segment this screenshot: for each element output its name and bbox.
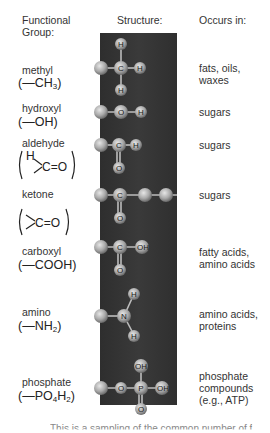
atom-label: OH xyxy=(137,243,149,252)
atom-label: C xyxy=(116,141,122,150)
atom-label: H xyxy=(118,86,124,95)
svg-text:C=O: C=O xyxy=(35,216,60,230)
formula-text: (—CH xyxy=(18,76,53,90)
svg-text:H: H xyxy=(26,149,35,163)
atom-label: O xyxy=(117,266,123,275)
group-name-carboxyl: carboxyl xyxy=(22,245,61,257)
occurs-ketone: sugars xyxy=(199,189,231,201)
formula-amino: (—NH2) xyxy=(18,319,61,333)
formula-text: H xyxy=(57,389,66,403)
atom-label: H xyxy=(131,332,137,341)
atom-label: P xyxy=(138,384,143,393)
svg-text:C=O: C=O xyxy=(42,160,67,174)
occurs-amino: amino acids, proteins xyxy=(199,308,258,332)
occurs-aldehyde: sugars xyxy=(199,139,231,151)
atom-label: H xyxy=(133,141,139,150)
occurs-phosphate: phosphate compounds (e.g., ATP) xyxy=(199,370,253,406)
formula-text: ) xyxy=(57,319,61,333)
formula-methyl: (—CH3) xyxy=(18,76,61,90)
group-name-ketone: ketone xyxy=(22,188,54,200)
formula-hydroxyl: (—OH) xyxy=(18,115,58,129)
formula-ketone: C=O xyxy=(16,207,72,240)
occurs-methyl: fats, oils, waxes xyxy=(199,62,240,86)
atom-label: H xyxy=(138,108,144,117)
formula-carboxyl: (—COOH) xyxy=(18,258,76,272)
formula-text: ) xyxy=(71,389,75,403)
occurs-carboxyl: fatty acids, amino acids xyxy=(199,246,255,270)
group-name-methyl: methyl xyxy=(22,64,53,76)
atom-label: C xyxy=(117,243,123,252)
atom-label: H xyxy=(137,64,143,73)
formula-text: ) xyxy=(57,76,61,90)
formula-text: (—NH xyxy=(18,319,53,333)
aldehyde-structure-icon: H C=O xyxy=(16,148,76,182)
group-name-amino: amino xyxy=(22,306,51,318)
ketone-structure-icon: C=O xyxy=(16,207,72,237)
atom-label: C xyxy=(117,191,123,200)
atom-label: O xyxy=(117,214,123,223)
atom-label: H xyxy=(131,290,137,299)
atom-label: N xyxy=(121,312,127,321)
atom-label: OH xyxy=(135,362,147,371)
atom-label: O xyxy=(118,384,124,393)
atom-label: OH xyxy=(157,384,169,393)
group-name-phosphate: phosphate xyxy=(22,376,71,388)
formula-text: (—PO xyxy=(18,389,53,403)
group-name-hydroxyl: hydroxyl xyxy=(22,102,61,114)
formula-aldehyde: H C=O xyxy=(16,148,76,185)
atom-label: O xyxy=(138,405,144,414)
atom-label: O xyxy=(118,108,124,117)
atom-label: O xyxy=(116,164,122,173)
formula-phosphate: (—PO4H2) xyxy=(18,389,75,403)
occurs-hydroxyl: sugars xyxy=(199,106,231,118)
atom-label: H xyxy=(118,40,124,49)
atom-label: C xyxy=(118,64,124,73)
